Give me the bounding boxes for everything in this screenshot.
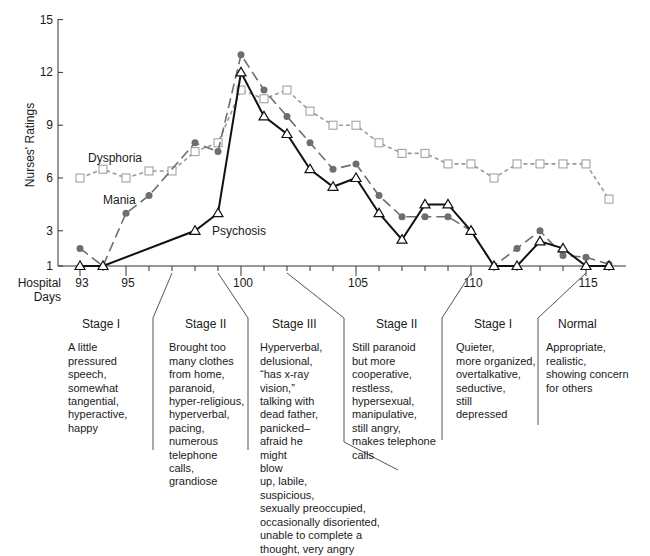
y-ticks: 13691215 xyxy=(40,13,63,273)
triangle-marker xyxy=(535,236,545,245)
y-tick-label: 9 xyxy=(46,118,53,132)
square-marker xyxy=(122,174,130,182)
series-line xyxy=(80,55,609,266)
circle-marker xyxy=(422,213,429,220)
square-marker xyxy=(605,195,613,203)
circle-marker xyxy=(215,148,222,155)
stage-description: Still paranoid but more cooperative, res… xyxy=(352,341,457,462)
stage-description: Appropriate, realistic, showing concern … xyxy=(546,341,646,395)
y-tick-label: 6 xyxy=(46,171,53,185)
stage-title: Stage I xyxy=(68,318,152,331)
stage-title: Stage II xyxy=(352,318,457,331)
label-mania: Mania xyxy=(103,193,136,207)
circle-marker xyxy=(583,254,590,261)
square-marker xyxy=(375,139,383,147)
square-marker xyxy=(99,165,107,173)
circle-marker xyxy=(399,213,406,220)
circle-marker xyxy=(238,51,245,58)
stage-description: Quieter, more organized, overtalkative, … xyxy=(456,341,546,421)
x-tick-label: 110 xyxy=(463,276,482,290)
x-axis-title-line2: Days xyxy=(34,290,61,304)
stage-col-2: Stage II Brought too many clothes from h… xyxy=(169,318,249,489)
square-marker xyxy=(191,148,199,156)
triangle-marker xyxy=(351,173,361,182)
x-axis-title-line1: Hospital xyxy=(18,276,61,290)
square-marker xyxy=(260,95,268,103)
stage-title: Stage II xyxy=(169,318,249,331)
stage-title: Stage I xyxy=(456,318,546,331)
circle-marker xyxy=(192,139,199,146)
y-axis-title: Nurses' Ratings xyxy=(23,103,37,187)
triangle-marker xyxy=(213,208,223,217)
square-marker xyxy=(444,160,452,168)
circle-marker xyxy=(514,245,521,252)
circle-marker xyxy=(307,139,314,146)
square-marker xyxy=(283,86,291,94)
circle-marker xyxy=(146,192,153,199)
y-tick-label: 3 xyxy=(46,224,53,238)
stage-title: Normal xyxy=(546,318,646,331)
square-marker xyxy=(582,160,590,168)
circle-marker xyxy=(261,87,268,94)
x-tick-label: 100 xyxy=(233,276,253,290)
circle-marker xyxy=(77,245,84,252)
square-marker xyxy=(536,160,544,168)
square-marker xyxy=(513,160,521,168)
y-tick-label: 1 xyxy=(46,259,53,273)
circle-marker xyxy=(330,166,337,173)
triangle-marker xyxy=(259,111,269,120)
circle-marker xyxy=(284,113,291,120)
square-marker xyxy=(306,107,314,115)
stage-description: Brought too many clothes from home, para… xyxy=(169,341,249,488)
y-tick-label: 15 xyxy=(40,13,54,27)
square-marker xyxy=(490,174,498,182)
circle-marker xyxy=(353,160,360,167)
square-marker xyxy=(329,121,337,129)
x-ticks: 9395100105110115 xyxy=(75,266,609,290)
series-psychosis xyxy=(75,67,614,269)
square-marker xyxy=(421,149,429,157)
stage-description: A little pressured speech, somewhat tang… xyxy=(68,341,152,435)
square-marker xyxy=(559,160,567,168)
square-marker xyxy=(145,167,153,175)
stage-col-5: Stage I Quieter, more organized, overtal… xyxy=(456,318,546,422)
series-layer xyxy=(75,51,614,269)
series-line xyxy=(80,72,609,266)
square-marker xyxy=(467,160,475,168)
circle-marker xyxy=(376,192,383,199)
stage-col-6: Normal Appropriate, realistic, showing c… xyxy=(546,318,646,395)
circle-marker xyxy=(445,213,452,220)
x-tick-label: 105 xyxy=(348,276,368,290)
square-marker xyxy=(352,121,360,129)
series-dysphoria xyxy=(76,86,613,203)
circle-marker xyxy=(560,252,567,259)
stage-col-1: Stage I A little pressured speech, somew… xyxy=(68,318,152,435)
label-psychosis: Psychosis xyxy=(212,224,266,238)
stage-col-4: Stage II Still paranoid but more coopera… xyxy=(352,318,457,462)
y-tick-label: 12 xyxy=(40,65,54,79)
circle-marker xyxy=(537,227,544,234)
label-dysphoria: Dysphoria xyxy=(88,151,142,165)
series-mania xyxy=(77,51,613,269)
x-tick-label: 115 xyxy=(578,276,597,290)
square-marker xyxy=(398,149,406,157)
square-marker xyxy=(76,174,84,182)
circle-marker xyxy=(123,210,130,217)
x-tick-label: 95 xyxy=(121,276,135,290)
x-tick-label: 93 xyxy=(75,276,89,290)
